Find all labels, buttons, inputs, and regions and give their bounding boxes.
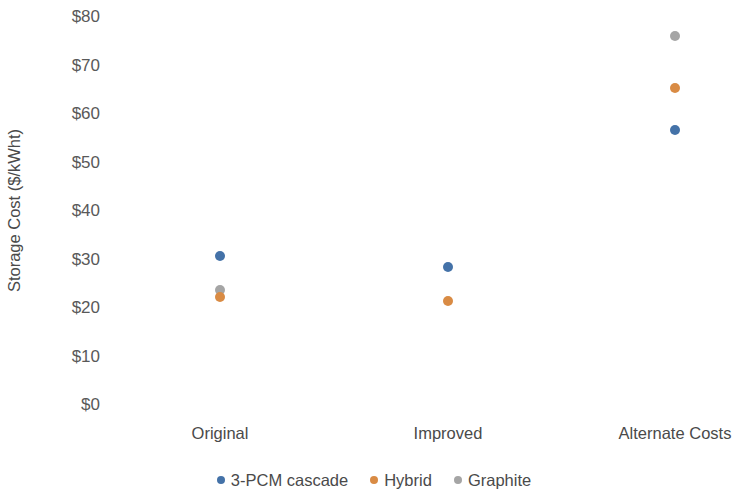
y-axis-tick-labels: $0$10$20$30$40$50$60$70$80 <box>30 0 108 420</box>
legend-label: Graphite <box>468 471 531 490</box>
y-axis-title-text: Storage Cost ($/kWht) <box>6 128 25 291</box>
y-axis-tick-label: $20 <box>72 298 100 318</box>
data-point <box>443 262 453 272</box>
y-axis-tick-label: $30 <box>72 250 100 270</box>
y-axis-tick-label: $80 <box>72 7 100 27</box>
data-point <box>670 125 680 135</box>
storage-cost-scatter-chart: Storage Cost ($/kWht) $0$10$20$30$40$50$… <box>0 0 748 494</box>
plot-area <box>108 0 748 420</box>
y-axis-tick-label: $10 <box>72 347 100 367</box>
y-axis-tick-label: $70 <box>72 56 100 76</box>
legend-item[interactable]: 3-PCM cascade <box>217 471 348 490</box>
y-axis-tick-label: $60 <box>72 104 100 124</box>
y-axis-tick-label: $50 <box>72 153 100 173</box>
x-axis-category-label: Alternate Costs <box>619 424 732 443</box>
data-point <box>215 292 225 302</box>
data-point <box>443 296 453 306</box>
legend-label: 3-PCM cascade <box>231 471 348 490</box>
y-axis-tick-label: $0 <box>81 395 100 415</box>
y-axis-title: Storage Cost ($/kWht) <box>0 0 30 420</box>
y-axis-tick-label: $40 <box>72 201 100 221</box>
legend-item[interactable]: Graphite <box>454 471 531 490</box>
data-point <box>670 83 680 93</box>
legend-marker-icon <box>217 476 225 484</box>
data-point <box>670 31 680 41</box>
data-point <box>215 251 225 261</box>
legend-marker-icon <box>370 476 378 484</box>
x-axis-category-label: Improved <box>414 424 483 443</box>
x-axis-category-labels: OriginalImprovedAlternate Costs <box>108 420 748 452</box>
x-axis-category-label: Original <box>192 424 249 443</box>
legend-marker-icon <box>454 476 462 484</box>
chart-legend: 3-PCM cascadeHybridGraphite <box>0 466 748 494</box>
legend-label: Hybrid <box>384 471 432 490</box>
legend-item[interactable]: Hybrid <box>370 471 432 490</box>
